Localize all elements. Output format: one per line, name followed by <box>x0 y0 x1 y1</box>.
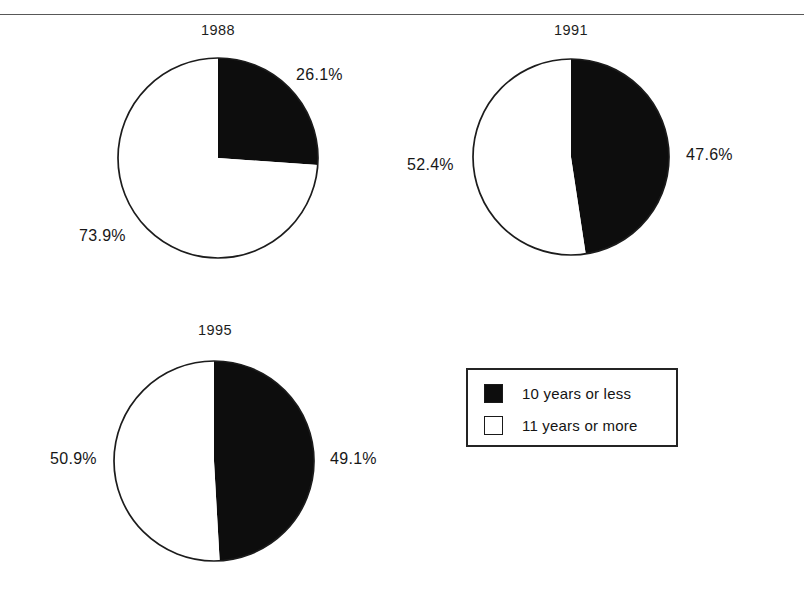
pie-slice-1995-black <box>114 361 220 561</box>
clipped-header-text-artifact <box>40 0 100 8</box>
pie-label-1988-black: 26.1% <box>296 66 343 84</box>
figure-canvas: 1988 26.1% 73.9% 1991 47.6% 52.4% 1995 <box>0 0 804 605</box>
pie-label-1991-white: 52.4% <box>407 156 454 174</box>
pie-title-1995: 1995 <box>135 322 295 338</box>
legend-label-11-years-or-more: 11 years or more <box>522 417 637 434</box>
pie-chart-1988 <box>113 53 323 263</box>
top-horizontal-rule <box>0 14 804 15</box>
pie-title-1988: 1988 <box>138 22 298 38</box>
pie-chart-1991 <box>468 54 674 260</box>
pie-slice-1991-white <box>571 59 669 254</box>
pie-label-1988-white: 73.9% <box>79 227 126 245</box>
pie-label-1991-black: 47.6% <box>686 146 733 164</box>
pie-slice-1995-white <box>214 361 314 561</box>
legend-swatch-hollow-icon <box>484 416 503 435</box>
legend-item-10-years-or-less: 10 years or less <box>484 381 631 405</box>
pie-chart-1995 <box>109 356 319 566</box>
legend: 10 years or less 11 years or more <box>466 368 678 447</box>
legend-label-10-years-or-less: 10 years or less <box>522 385 631 402</box>
pie-title-1991: 1991 <box>491 22 651 38</box>
pie-label-1995-white: 50.9% <box>50 450 97 468</box>
pie-slice-1991-black <box>473 59 586 255</box>
legend-swatch-filled-icon <box>484 384 503 403</box>
legend-item-11-years-or-more: 11 years or more <box>484 413 637 437</box>
pie-label-1995-black: 49.1% <box>330 450 377 468</box>
